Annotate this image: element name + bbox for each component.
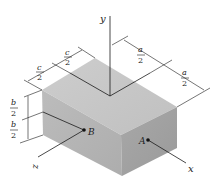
c-half-1-num: c (37, 63, 42, 72)
x-axis-label: x (188, 163, 194, 174)
z-axis-label: z (30, 164, 40, 170)
a-ext-line-3 (177, 88, 210, 107)
b-ext-line-1 (24, 90, 42, 97)
c-half-2-den: 2 (65, 58, 70, 67)
point-a (146, 138, 150, 142)
y-axis-label: y (99, 13, 106, 24)
c-half-1-den: 2 (37, 73, 42, 82)
a-half-1-num: a (138, 45, 143, 54)
b-ext-line-2 (22, 112, 43, 120)
b-half-2-num: b (11, 120, 16, 129)
point-a-label: A (138, 136, 146, 146)
c-ext-line-3 (78, 47, 95, 58)
a-half-2-den: 2 (182, 79, 187, 88)
c-half-2-num: c (65, 48, 70, 57)
point-b-label: B (87, 127, 95, 137)
point-b (82, 128, 86, 132)
b-half-1-den: 2 (11, 109, 16, 118)
a-ext-line-1 (112, 36, 128, 45)
a-half-2-num: a (182, 68, 187, 77)
a-half-1-den: 2 (138, 56, 143, 65)
a-ext-line-2 (150, 60, 172, 73)
b-half-2-den: 2 (11, 131, 16, 140)
b-ext-line-3 (20, 135, 43, 143)
block-diagram: y x z B A c 2 c 2 a 2 a 2 b 2 b 2 (0, 0, 220, 184)
b-half-1-num: b (11, 98, 16, 107)
